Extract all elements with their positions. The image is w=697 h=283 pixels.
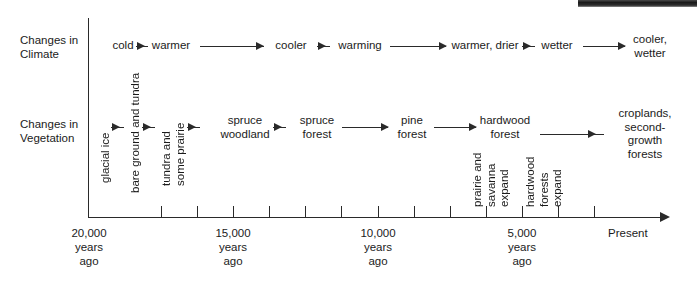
row-label-climate: Changes in Climate bbox=[20, 33, 92, 61]
arrow-head-icon bbox=[469, 123, 477, 131]
timeline-diagram: Changes in Climate Changes in Vegetation… bbox=[0, 0, 697, 283]
axis-tick bbox=[341, 206, 342, 217]
arrow-head-icon bbox=[256, 42, 264, 50]
climate-node-warmer: warmer bbox=[152, 39, 190, 53]
vegetation-annotation-hardwood-forests-expand: hardwood forests expand bbox=[524, 142, 565, 207]
vegetation-node-hardwood-forest: hardwood forest bbox=[480, 114, 531, 141]
arrow-head-icon bbox=[137, 42, 145, 50]
axis-tick-label: 20,000 years ago bbox=[44, 226, 134, 268]
row-label-vegetation: Changes in Vegetation bbox=[20, 117, 92, 145]
vegetation-annotation-prairie-and-savanna-expand: prairie and savanna expand bbox=[471, 142, 512, 207]
arrow-head-icon bbox=[618, 42, 626, 50]
axis-tick bbox=[450, 206, 451, 217]
axis-tick bbox=[269, 206, 270, 217]
climate-node-warmer-drier: warmer, drier bbox=[451, 39, 518, 53]
arrow-head-icon bbox=[188, 123, 196, 131]
vegetation-node-tundra-and-some-prairie: tundra and some prairie bbox=[160, 96, 187, 186]
vegetation-node-bare-ground-and-tundra: bare ground and tundra bbox=[129, 68, 143, 193]
arrow-head-icon bbox=[381, 123, 389, 131]
arrow-head-icon bbox=[143, 123, 151, 131]
climate-node-wetter: wetter bbox=[541, 39, 572, 53]
axis-tick-label: 15,000 years ago bbox=[188, 226, 278, 268]
horizontal-axis-line bbox=[88, 217, 663, 218]
axis-tick bbox=[378, 206, 379, 217]
arrow-head-icon bbox=[439, 42, 447, 50]
climate-node-cooler: cooler bbox=[275, 39, 306, 53]
axis-tick bbox=[522, 206, 523, 217]
axis-tick bbox=[414, 206, 415, 217]
axis-tick bbox=[486, 206, 487, 217]
vegetation-node-pine-forest: pine forest bbox=[398, 114, 427, 141]
vertical-axis-line bbox=[88, 18, 89, 218]
axis-tick bbox=[594, 206, 595, 217]
axis-end-label-present: Present bbox=[608, 226, 648, 240]
climate-node-cold: cold bbox=[112, 39, 133, 53]
arrow-head-icon bbox=[274, 123, 282, 131]
vegetation-node-glacial-ice: glacial ice bbox=[99, 103, 113, 183]
arrow-head-icon bbox=[523, 42, 531, 50]
axis-tick bbox=[233, 206, 234, 217]
axis-tick-label: 5,000 years ago bbox=[477, 226, 567, 268]
axis-arrow-icon bbox=[660, 212, 670, 222]
connector-line bbox=[390, 46, 446, 47]
axis-tick bbox=[305, 206, 306, 217]
axis-tick bbox=[88, 206, 89, 217]
connector-line bbox=[200, 46, 264, 47]
axis-tick bbox=[161, 206, 162, 217]
vegetation-node-spruce-woodland: spruce woodland bbox=[220, 114, 269, 141]
vegetation-node-croplands-second-growth-forests: croplands, second-growth forests bbox=[618, 107, 671, 161]
arrow-head-icon bbox=[588, 130, 596, 138]
vegetation-node-spruce-forest: spruce forest bbox=[300, 114, 335, 141]
climate-node-cooler-wetter: cooler, wetter bbox=[627, 33, 674, 60]
axis-tick bbox=[197, 206, 198, 217]
arrow-head-icon bbox=[112, 123, 120, 131]
axis-tick-label: 10,000 years ago bbox=[333, 226, 423, 268]
scan-artifact bbox=[578, 0, 697, 7]
climate-node-warming: warming bbox=[338, 39, 381, 53]
arrow-head-icon bbox=[318, 42, 326, 50]
axis-tick bbox=[558, 206, 559, 217]
